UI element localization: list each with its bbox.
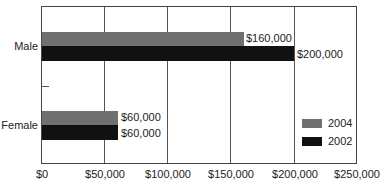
axis-tick-mark xyxy=(41,86,49,87)
gridline xyxy=(294,7,295,163)
legend-swatch-icon xyxy=(302,119,322,128)
legend-label: 2002 xyxy=(328,135,352,147)
gridline xyxy=(167,7,168,163)
legend-item-2004: 2004 xyxy=(302,114,352,132)
bar-male-2002 xyxy=(42,46,294,61)
bar-male-2004 xyxy=(42,32,244,46)
bar-female-2002 xyxy=(42,125,118,140)
gridline xyxy=(230,7,231,163)
category-label-female: Female xyxy=(0,119,38,131)
x-tick-label: $100,000 xyxy=(145,168,191,180)
x-tick-label: $150,000 xyxy=(208,168,254,180)
legend-label: 2004 xyxy=(328,117,352,129)
bar-female-2004 xyxy=(42,111,118,125)
bar-chart: Male Female $160,000 $200,000 $60,000 $6… xyxy=(0,0,386,184)
x-tick-label: $0 xyxy=(36,168,48,180)
data-label-male-2004: $160,000 xyxy=(246,31,292,45)
data-label-male-2002: $200,000 xyxy=(297,47,343,61)
data-label-female-2002: $60,000 xyxy=(121,126,161,140)
legend-item-2002: 2002 xyxy=(302,132,352,150)
data-label-female-2004: $60,000 xyxy=(121,110,161,124)
category-label-male: Male xyxy=(0,40,38,52)
legend: 2004 2002 xyxy=(302,114,352,150)
x-tick-label: $50,000 xyxy=(85,168,125,180)
x-tick-label: $250,000 xyxy=(334,168,380,180)
legend-swatch-icon xyxy=(302,137,322,146)
x-tick-label: $200,000 xyxy=(272,168,318,180)
